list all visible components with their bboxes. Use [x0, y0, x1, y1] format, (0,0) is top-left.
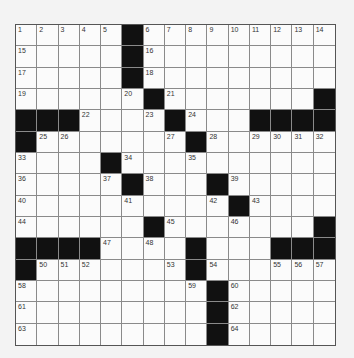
grid-cell[interactable] [144, 132, 165, 153]
grid-cell[interactable] [314, 324, 335, 345]
grid-cell[interactable] [229, 132, 250, 153]
grid-cell[interactable] [165, 196, 186, 217]
grid-cell[interactable]: 16 [144, 46, 165, 67]
grid-cell[interactable] [250, 68, 271, 89]
grid-cell[interactable] [271, 196, 292, 217]
grid-cell[interactable] [314, 196, 335, 217]
grid-cell[interactable] [186, 302, 207, 323]
grid-cell[interactable] [122, 281, 143, 302]
grid-cell[interactable]: 64 [229, 324, 250, 345]
grid-cell[interactable]: 7 [165, 25, 186, 46]
grid-cell[interactable] [250, 281, 271, 302]
grid-cell[interactable] [314, 174, 335, 195]
grid-cell[interactable]: 5 [101, 25, 122, 46]
grid-cell[interactable]: 37 [101, 174, 122, 195]
grid-cell[interactable]: 51 [59, 260, 80, 281]
grid-cell[interactable]: 44 [16, 217, 37, 238]
grid-cell[interactable] [314, 281, 335, 302]
grid-cell[interactable] [37, 302, 58, 323]
grid-cell[interactable] [101, 89, 122, 110]
grid-cell[interactable]: 38 [144, 174, 165, 195]
grid-cell[interactable] [101, 196, 122, 217]
grid-cell[interactable] [37, 196, 58, 217]
grid-cell[interactable] [271, 302, 292, 323]
grid-cell[interactable] [59, 324, 80, 345]
grid-cell[interactable] [250, 302, 271, 323]
grid-cell[interactable]: 10 [229, 25, 250, 46]
grid-cell[interactable]: 26 [59, 132, 80, 153]
grid-cell[interactable] [186, 46, 207, 67]
grid-cell[interactable] [314, 153, 335, 174]
grid-cell[interactable] [122, 260, 143, 281]
grid-cell[interactable] [271, 153, 292, 174]
grid-cell[interactable] [37, 281, 58, 302]
grid-cell[interactable] [292, 153, 313, 174]
grid-cell[interactable]: 6 [144, 25, 165, 46]
grid-cell[interactable]: 23 [144, 110, 165, 131]
grid-cell[interactable] [165, 153, 186, 174]
grid-cell[interactable] [144, 260, 165, 281]
grid-cell[interactable] [144, 196, 165, 217]
grid-cell[interactable] [250, 89, 271, 110]
grid-cell[interactable] [80, 153, 101, 174]
grid-cell[interactable] [165, 238, 186, 259]
grid-cell[interactable] [101, 302, 122, 323]
grid-cell[interactable]: 58 [16, 281, 37, 302]
grid-cell[interactable]: 22 [80, 110, 101, 131]
grid-cell[interactable] [165, 46, 186, 67]
grid-cell[interactable] [101, 324, 122, 345]
grid-cell[interactable]: 25 [37, 132, 58, 153]
grid-cell[interactable] [101, 260, 122, 281]
grid-cell[interactable] [37, 153, 58, 174]
grid-cell[interactable] [207, 238, 228, 259]
grid-cell[interactable]: 21 [165, 89, 186, 110]
grid-cell[interactable] [271, 89, 292, 110]
grid-cell[interactable] [101, 281, 122, 302]
grid-cell[interactable]: 4 [80, 25, 101, 46]
grid-cell[interactable] [59, 217, 80, 238]
grid-cell[interactable]: 42 [207, 196, 228, 217]
grid-cell[interactable]: 9 [207, 25, 228, 46]
grid-cell[interactable] [37, 174, 58, 195]
grid-cell[interactable] [59, 302, 80, 323]
grid-cell[interactable] [59, 46, 80, 67]
grid-cell[interactable]: 1 [16, 25, 37, 46]
grid-cell[interactable] [165, 174, 186, 195]
grid-cell[interactable] [165, 281, 186, 302]
grid-cell[interactable] [292, 89, 313, 110]
grid-cell[interactable] [250, 260, 271, 281]
grid-cell[interactable] [80, 302, 101, 323]
grid-cell[interactable] [250, 217, 271, 238]
grid-cell[interactable]: 12 [271, 25, 292, 46]
grid-cell[interactable] [314, 68, 335, 89]
grid-cell[interactable] [292, 46, 313, 67]
grid-cell[interactable] [186, 196, 207, 217]
grid-cell[interactable] [101, 132, 122, 153]
grid-cell[interactable]: 52 [80, 260, 101, 281]
grid-cell[interactable]: 48 [144, 238, 165, 259]
grid-cell[interactable] [122, 132, 143, 153]
grid-cell[interactable]: 36 [16, 174, 37, 195]
grid-cell[interactable] [271, 46, 292, 67]
grid-cell[interactable] [207, 68, 228, 89]
grid-cell[interactable] [165, 68, 186, 89]
grid-cell[interactable] [80, 217, 101, 238]
grid-cell[interactable]: 30 [271, 132, 292, 153]
grid-cell[interactable] [122, 217, 143, 238]
grid-cell[interactable] [271, 174, 292, 195]
grid-cell[interactable]: 40 [16, 196, 37, 217]
grid-cell[interactable] [80, 68, 101, 89]
grid-cell[interactable] [59, 153, 80, 174]
grid-cell[interactable] [59, 89, 80, 110]
grid-cell[interactable]: 2 [37, 25, 58, 46]
grid-cell[interactable] [292, 302, 313, 323]
grid-cell[interactable] [186, 324, 207, 345]
grid-cell[interactable] [122, 302, 143, 323]
grid-cell[interactable] [271, 324, 292, 345]
grid-cell[interactable] [59, 196, 80, 217]
grid-cell[interactable] [59, 174, 80, 195]
grid-cell[interactable] [37, 89, 58, 110]
grid-cell[interactable] [292, 196, 313, 217]
grid-cell[interactable]: 31 [292, 132, 313, 153]
grid-cell[interactable]: 43 [250, 196, 271, 217]
